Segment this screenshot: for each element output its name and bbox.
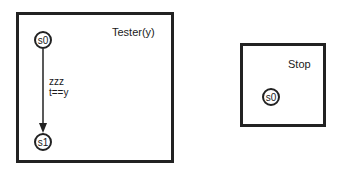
state-tester-s0[interactable]: s0	[34, 31, 52, 49]
process-title-stop: Stop	[288, 58, 311, 70]
transition-label: zzz t==y	[49, 76, 68, 98]
state-label: s0	[38, 35, 49, 46]
state-stop-s0[interactable]: s0	[262, 88, 280, 106]
state-tester-s1[interactable]: s1	[34, 133, 52, 151]
guard-label: t==y	[49, 87, 68, 98]
state-label: s0	[266, 92, 277, 103]
process-stop: Stop	[240, 43, 326, 127]
state-label: s1	[38, 137, 49, 148]
sync-label: zzz	[49, 76, 68, 87]
arrowhead-icon	[39, 123, 47, 133]
